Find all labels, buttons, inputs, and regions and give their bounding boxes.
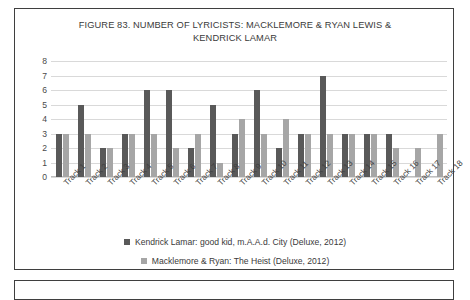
bar-group (51, 61, 73, 177)
x-tick: Track 7 (183, 179, 205, 221)
x-tick: Track 17 (403, 179, 425, 221)
legend-label: Macklemore & Ryan: The Heist (Deluxe, 20… (152, 256, 330, 266)
x-tick: Track 6 (161, 179, 183, 221)
bar-group (73, 61, 95, 177)
plot-area (51, 61, 447, 177)
bar-group (205, 61, 227, 177)
x-tick: Track 16 (381, 179, 403, 221)
bar-groups (51, 61, 447, 177)
bar-group (95, 61, 117, 177)
y-tick-label: 8 (42, 56, 47, 66)
next-figure-container (14, 280, 454, 300)
bar (195, 134, 201, 178)
bar-group (249, 61, 271, 177)
y-tick-label: 4 (42, 114, 47, 124)
x-tick: Track 11 (271, 179, 293, 221)
x-tick: Track 13 (315, 179, 337, 221)
x-axis-labels: Track 1Track 2Track 3Track 4Track 5Track… (51, 179, 447, 221)
y-tick-label: 5 (42, 100, 47, 110)
legend-item[interactable]: Kendrick Lamar: good kid, m.A.A.d. City … (15, 237, 455, 247)
bar (63, 134, 69, 178)
legend-swatch-icon (141, 258, 147, 264)
bar (151, 134, 157, 178)
x-tick: Track 2 (73, 179, 95, 221)
x-tick: Track 10 (249, 179, 271, 221)
bar-group (227, 61, 249, 177)
bar (173, 148, 179, 177)
bar (349, 134, 355, 178)
legend-swatch-icon (124, 239, 130, 245)
x-tick: Track 3 (95, 179, 117, 221)
legend-label: Kendrick Lamar: good kid, m.A.A.d. City … (135, 237, 346, 247)
bar (56, 134, 62, 178)
bar-group (183, 61, 205, 177)
y-tick-label: 6 (42, 85, 47, 95)
y-tick-label: 0 (42, 172, 47, 182)
y-tick-label: 2 (42, 143, 47, 153)
x-tick: Track 8 (205, 179, 227, 221)
x-tick: Track 5 (139, 179, 161, 221)
x-tick: Track 4 (117, 179, 139, 221)
y-axis-labels: 012345678 (31, 61, 47, 177)
x-tick: Track 12 (293, 179, 315, 221)
x-tick: Track 14 (337, 179, 359, 221)
bar (129, 134, 135, 178)
bar (107, 148, 113, 177)
y-tick-label: 7 (42, 71, 47, 81)
bar (85, 134, 91, 178)
x-tick: Track 9 (227, 179, 249, 221)
x-tick: Track 15 (359, 179, 381, 221)
legend-item[interactable]: Macklemore & Ryan: The Heist (Deluxe, 20… (15, 256, 455, 266)
y-tick-label: 3 (42, 129, 47, 139)
bar (327, 134, 333, 178)
x-tick: Track 18 (425, 179, 447, 221)
x-tick: Track 1 (51, 179, 73, 221)
bar-group (139, 61, 161, 177)
bar-group (117, 61, 139, 177)
chart-title: FIGURE 83. NUMBER OF LYRICISTS: MACKLEMO… (55, 19, 415, 45)
bar (437, 134, 443, 178)
chart-legend: Kendrick Lamar: good kid, m.A.A.d. City … (15, 237, 455, 275)
figure-container: FIGURE 83. NUMBER OF LYRICISTS: MACKLEMO… (14, 8, 454, 270)
bar-group (161, 61, 183, 177)
y-tick-label: 1 (42, 158, 47, 168)
bar (371, 134, 377, 178)
bar (261, 134, 267, 178)
bar (305, 134, 311, 178)
